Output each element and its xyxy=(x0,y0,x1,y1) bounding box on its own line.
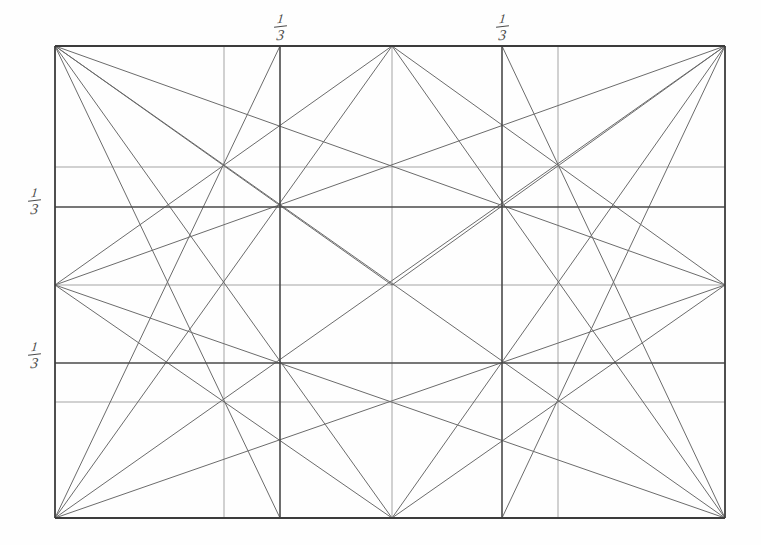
fraction-numerator: 1 xyxy=(27,339,42,353)
fraction-numerator: 1 xyxy=(495,11,510,25)
fraction-stack: 1 3 xyxy=(496,12,509,43)
label-top-right-third: 1 3 xyxy=(490,12,514,43)
fraction-stack: 1 3 xyxy=(28,340,41,371)
diagonal-bc-lm xyxy=(55,285,392,518)
fraction-denominator: 3 xyxy=(495,28,510,44)
diagonal-construction-lines xyxy=(55,46,725,518)
fraction-numerator: 1 xyxy=(273,11,288,25)
fraction-stack: 1 3 xyxy=(28,186,41,217)
fraction-denominator: 3 xyxy=(273,28,288,44)
fraction-stack: 1 3 xyxy=(274,12,287,43)
fraction-denominator: 3 xyxy=(27,202,42,218)
thirds-construction-diagram xyxy=(0,0,761,545)
fraction-numerator: 1 xyxy=(27,185,42,199)
label-left-lower-third: 1 3 xyxy=(22,340,46,371)
label-top-left-third: 1 3 xyxy=(268,12,292,43)
fraction-denominator: 3 xyxy=(27,356,42,372)
label-left-upper-third: 1 3 xyxy=(22,186,46,217)
drawing-sheet: 1 3 1 3 1 3 1 3 xyxy=(0,0,761,545)
